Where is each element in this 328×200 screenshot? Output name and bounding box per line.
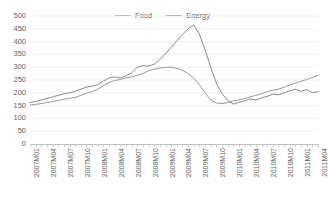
x-axis-tick	[53, 144, 54, 147]
x-axis-tick	[312, 144, 313, 147]
x-axis-tick-label: 2008M07	[135, 148, 142, 177]
x-axis-tick	[64, 144, 65, 147]
x-axis-tick	[267, 144, 268, 147]
y-axis-labels: 050100150200250300350400450500	[0, 16, 28, 144]
x-axis-tick	[92, 144, 93, 147]
y-axis-tick-label: 400	[13, 38, 26, 46]
x-axis-tick-label: 2011M01	[304, 148, 311, 177]
x-axis-tick	[295, 144, 296, 147]
x-axis-tick	[290, 144, 291, 147]
x-axis-tick	[115, 144, 116, 147]
x-axis-tick	[250, 144, 251, 147]
x-axis-tick	[171, 144, 172, 147]
plot-svg	[30, 16, 318, 144]
x-axis-tick	[132, 144, 133, 147]
y-axis-tick-label: 350	[13, 51, 26, 59]
x-axis-tick	[47, 144, 48, 147]
x-axis-tick	[103, 144, 104, 147]
x-axis-tick	[154, 144, 155, 147]
x-axis-tick	[256, 144, 257, 147]
x-axis-tick	[86, 144, 87, 147]
y-axis-tick-label: 100	[13, 115, 26, 123]
x-axis-tick-label: 2009M04	[185, 148, 192, 177]
x-axis-tick	[70, 144, 71, 147]
x-axis-tick	[188, 144, 189, 147]
x-axis-tick	[199, 144, 200, 147]
x-axis-tick-label: 2010M07	[270, 148, 277, 177]
x-axis-tick	[137, 144, 138, 147]
x-axis-tick	[109, 144, 110, 147]
x-axis-tick-label: 2010M10	[287, 148, 294, 177]
y-axis-tick-label: 250	[13, 76, 26, 84]
y-axis-tick-label: 50	[18, 127, 26, 135]
x-axis-tick	[211, 144, 212, 147]
x-axis-ticks	[30, 144, 318, 147]
x-axis-tick	[41, 144, 42, 147]
x-axis-tick-label: 2008M10	[152, 148, 159, 177]
x-axis-tick	[273, 144, 274, 147]
x-axis-tick	[166, 144, 167, 147]
x-axis-tick	[177, 144, 178, 147]
x-axis-tick-label: 2007M07	[67, 148, 74, 177]
x-axis-tick-label: 2009M07	[202, 148, 209, 177]
x-axis-tick	[160, 144, 161, 147]
series-line-energy	[30, 25, 318, 104]
x-axis-tick-label: 2008M04	[118, 148, 125, 177]
y-axis-tick-label: 200	[13, 89, 26, 97]
x-axis-tick	[278, 144, 279, 147]
x-axis-tick-label: 2009M10	[219, 148, 226, 177]
y-axis-tick-label: 0	[22, 140, 26, 148]
y-axis-tick-label: 150	[13, 102, 26, 110]
y-axis-tick-label: 450	[13, 25, 26, 33]
x-axis-tick	[233, 144, 234, 147]
x-axis-tick	[143, 144, 144, 147]
x-axis-tick-label: 2010M01	[236, 148, 243, 177]
x-axis-tick-label: 2008M01	[101, 148, 108, 177]
y-axis-tick-label: 500	[13, 12, 26, 20]
x-axis-tick	[216, 144, 217, 147]
plot-area	[30, 16, 318, 144]
x-axis-tick	[284, 144, 285, 147]
x-axis-tick	[262, 144, 263, 147]
x-axis-tick-label: 2007M10	[84, 148, 91, 177]
x-axis-tick	[222, 144, 223, 147]
x-axis-tick-label: 2007M04	[50, 148, 57, 177]
x-axis-tick	[98, 144, 99, 147]
x-axis-tick	[239, 144, 240, 147]
x-axis-tick-label: 2010M04	[253, 148, 260, 177]
x-axis-tick-label: 2011M04	[321, 148, 328, 177]
x-axis-tick	[36, 144, 37, 147]
x-axis-tick	[205, 144, 206, 147]
series-line-food	[30, 67, 318, 105]
gridlines	[30, 16, 318, 131]
x-axis-tick	[120, 144, 121, 147]
x-axis-tick	[245, 144, 246, 147]
y-axis-tick-label: 300	[13, 63, 26, 71]
x-axis-tick-label: 2007M01	[33, 148, 40, 177]
x-axis-tick	[194, 144, 195, 147]
x-axis-labels: 2007M012007M042007M072007M102008M012008M…	[30, 148, 318, 198]
x-axis-tick	[228, 144, 229, 147]
x-axis-tick	[182, 144, 183, 147]
x-axis-tick	[81, 144, 82, 147]
x-axis-tick	[75, 144, 76, 147]
x-axis-tick-label: 2009M01	[169, 148, 176, 177]
x-axis-tick	[126, 144, 127, 147]
x-axis-tick	[58, 144, 59, 147]
x-axis-tick	[307, 144, 308, 147]
x-axis-tick	[149, 144, 150, 147]
x-axis-tick	[318, 144, 319, 147]
x-axis-tick	[301, 144, 302, 147]
x-axis-tick	[30, 144, 31, 147]
